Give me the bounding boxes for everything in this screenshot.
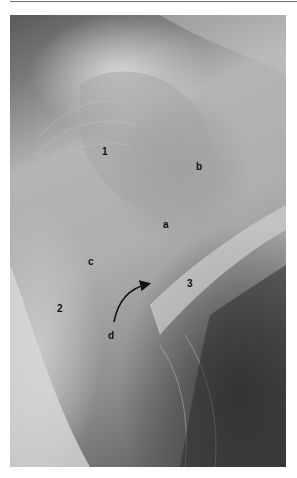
label-2: 2	[57, 304, 63, 314]
label-d: d	[108, 331, 114, 341]
label-a: a	[163, 220, 169, 230]
label-c: c	[88, 257, 94, 267]
label-1: 1	[102, 147, 108, 157]
arrow-d	[0, 0, 297, 478]
label-3: 3	[187, 279, 193, 289]
label-b: b	[196, 162, 202, 172]
